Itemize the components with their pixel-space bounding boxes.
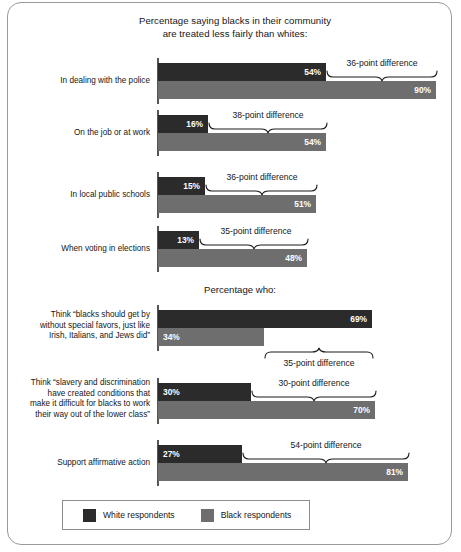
category-label-affirmative-action: Support affirmative action xyxy=(20,458,150,469)
legend-swatch-white-respondents xyxy=(83,509,96,522)
category-label-line: Support affirmative action xyxy=(20,458,150,469)
difference-label-special-favors: 35-point difference xyxy=(259,358,379,368)
bar-value-black-special-favors: 34% xyxy=(163,332,180,342)
difference-brace-job xyxy=(208,122,328,134)
bar-value-black-schools: 51% xyxy=(294,199,311,209)
category-label-line: When voting in elections xyxy=(20,244,150,255)
difference-brace-schools xyxy=(205,184,318,196)
bar-value-white-special-favors: 69% xyxy=(350,314,367,324)
difference-brace-slavery xyxy=(251,390,377,402)
legend-label-black-respondents: Black respondents xyxy=(221,510,292,520)
difference-label-affirmative-action: 54-point difference xyxy=(266,440,386,450)
category-label-line: In local public schools xyxy=(20,190,150,201)
category-label-line: without special favors, just like xyxy=(14,321,150,332)
difference-label-schools: 36-point difference xyxy=(202,172,322,182)
bar-value-black-police: 90% xyxy=(414,85,431,95)
difference-brace-voting xyxy=(199,238,309,250)
bar-black-job: 54% xyxy=(158,133,326,151)
bar-white-job: 16% xyxy=(158,115,208,133)
legend-item-black-respondents: Black respondents xyxy=(201,509,292,522)
bar-black-special-favors: 34% xyxy=(158,328,264,346)
bar-black-schools: 51% xyxy=(158,195,316,213)
bar-value-white-job: 16% xyxy=(186,119,203,129)
category-label-voting: When voting in elections xyxy=(20,244,150,255)
bar-white-schools: 15% xyxy=(158,177,205,195)
chart-canvas: Percentage saying blacks in their commun… xyxy=(0,0,461,552)
category-label-slavery: Think “slavery and discrimination have c… xyxy=(6,378,150,420)
section-2-title: Percentage who: xyxy=(160,284,320,297)
legend-label-white-respondents: White respondents xyxy=(103,510,175,520)
difference-brace-affirmative-action xyxy=(242,452,410,464)
chart-title-line-2: are treated less fairly than whites: xyxy=(110,28,360,41)
category-label-line: On the job or at work xyxy=(20,128,150,139)
bar-white-slavery: 30% xyxy=(158,383,251,401)
category-label-line: Think “slavery and discrimination xyxy=(6,378,150,389)
difference-label-slavery: 30-point difference xyxy=(254,378,374,388)
category-label-line: In dealing with the police xyxy=(20,76,150,87)
bar-value-black-job: 54% xyxy=(304,137,321,147)
category-label-line: make it difficult for blacks to work xyxy=(6,399,150,410)
category-label-line: have created conditions that xyxy=(6,389,150,400)
bar-value-black-voting: 48% xyxy=(285,253,302,263)
category-label-line: Think “blacks should get by xyxy=(14,310,150,321)
bar-value-black-affirmative-action: 81% xyxy=(386,467,403,477)
category-label-special-favors: Think “blacks should get by without spec… xyxy=(14,310,150,342)
legend-item-white-respondents: White respondents xyxy=(83,509,175,522)
bar-black-voting: 48% xyxy=(158,249,307,267)
category-label-line: their way out of the lower class” xyxy=(6,410,150,421)
bar-white-affirmative-action: 27% xyxy=(158,445,242,463)
category-label-schools: In local public schools xyxy=(20,190,150,201)
category-label-job: On the job or at work xyxy=(20,128,150,139)
difference-label-police: 36-point difference xyxy=(322,58,442,68)
difference-label-job: 38-point difference xyxy=(208,110,328,120)
bar-value-white-voting: 13% xyxy=(177,235,194,245)
category-label-police: In dealing with the police xyxy=(20,76,150,87)
bar-white-special-favors: 69% xyxy=(158,310,372,328)
chart-title-line-1: Percentage saying blacks in their commun… xyxy=(110,15,360,28)
legend-swatch-black-respondents xyxy=(201,509,214,522)
bar-value-white-slavery: 30% xyxy=(163,387,180,397)
difference-brace-police xyxy=(326,70,438,82)
bar-value-black-slavery: 70% xyxy=(353,405,370,415)
bar-black-slavery: 70% xyxy=(158,401,375,419)
bar-white-police: 54% xyxy=(158,63,326,81)
difference-label-voting: 35-point difference xyxy=(196,226,316,236)
bar-black-affirmative-action: 81% xyxy=(158,463,408,481)
bar-value-white-schools: 15% xyxy=(183,181,200,191)
bar-value-white-affirmative-action: 27% xyxy=(163,449,180,459)
bar-value-white-police: 54% xyxy=(304,67,321,77)
bar-black-police: 90% xyxy=(158,81,436,99)
chart-title: Percentage saying blacks in their commun… xyxy=(110,15,360,40)
bar-white-voting: 13% xyxy=(158,231,199,249)
category-label-line: Irish, Italians, and Jews did” xyxy=(14,331,150,342)
legend: White respondents Black respondents xyxy=(62,500,310,530)
